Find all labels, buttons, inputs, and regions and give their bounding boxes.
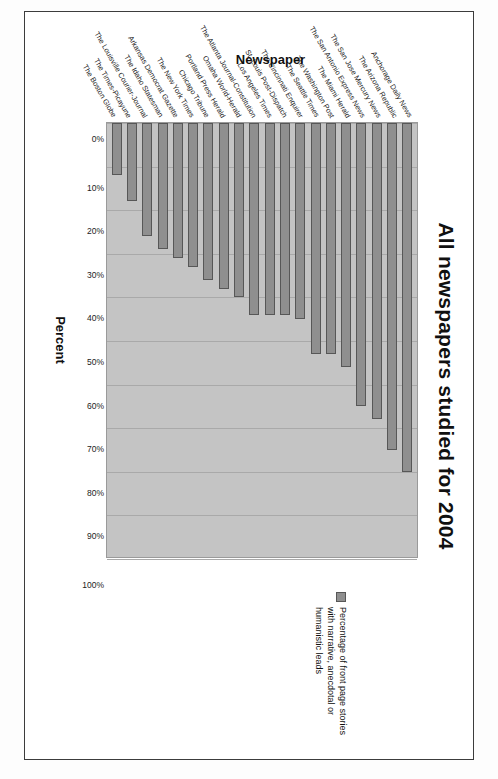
legend-swatch-icon [336,592,346,602]
bar [234,123,244,297]
bar-row [248,123,260,557]
bar [326,123,336,354]
x-tick-label: 100% [82,579,104,589]
bar-row [157,123,169,557]
bar-row [172,123,184,557]
x-tick-label: 10% [87,182,104,192]
bar-row [310,123,322,557]
legend-label: Percentage of front page stories with na… [312,607,348,742]
bar-row [203,123,215,557]
page-border: All newspapers studied for 2004 0%10%20%… [24,11,474,760]
bar-row [401,123,413,557]
y-axis-title: Newspaper [146,51,396,66]
x-tick-label: 60% [87,400,104,410]
bar-row [279,123,291,557]
x-tick-label: 40% [87,313,104,323]
bar [341,123,351,367]
y-axis-ticks: Anchorage Daily NewsThe Arizona Republic… [106,26,418,120]
bar-row [325,123,337,557]
bar-row [126,123,138,557]
bar-row [340,123,352,557]
bar-row [264,123,276,557]
bar [249,123,259,315]
x-tick-label: 20% [87,226,104,236]
bar-row [218,123,230,557]
bar [265,123,275,315]
x-tick-label: 90% [87,531,104,541]
x-tick-label: 30% [87,269,104,279]
bar-series [107,123,417,557]
plot-area [106,122,418,558]
bar [158,123,168,249]
bar [142,123,152,236]
bar-row [386,123,398,557]
x-axis-ticks: 0%10%20%30%40%50%60%70%80%90%100% [70,122,104,558]
x-tick-label: 0% [92,134,104,144]
legend: Percentage of front page stories with na… [312,592,348,742]
bar-row [355,123,367,557]
bar-row [187,123,199,557]
bar-row [294,123,306,557]
bar [402,123,412,472]
chart: All newspapers studied for 2004 0%10%20%… [34,26,464,746]
bar [204,123,214,280]
bar [356,123,366,406]
gridline [107,559,417,560]
bar [372,123,382,419]
bar [112,123,122,175]
bar-row [371,123,383,557]
bar [387,123,397,450]
bar-row [233,123,245,557]
bar-row [141,123,153,557]
bar [311,123,321,354]
bar [219,123,229,289]
rotated-chart-container: All newspapers studied for 2004 0%10%20%… [34,26,464,746]
bar [173,123,183,258]
x-tick-label: 70% [87,444,104,454]
chart-title: All newspapers studied for 2004 [434,26,458,746]
x-axis-title: Percent [53,122,68,558]
x-tick-label: 50% [87,357,104,367]
scanned-page: All newspapers studied for 2004 0%10%20%… [0,0,498,779]
bar-row [111,123,123,557]
bar [188,123,198,267]
bar [127,123,137,201]
x-tick-label: 80% [87,487,104,497]
bar [295,123,305,319]
bar [280,123,290,315]
